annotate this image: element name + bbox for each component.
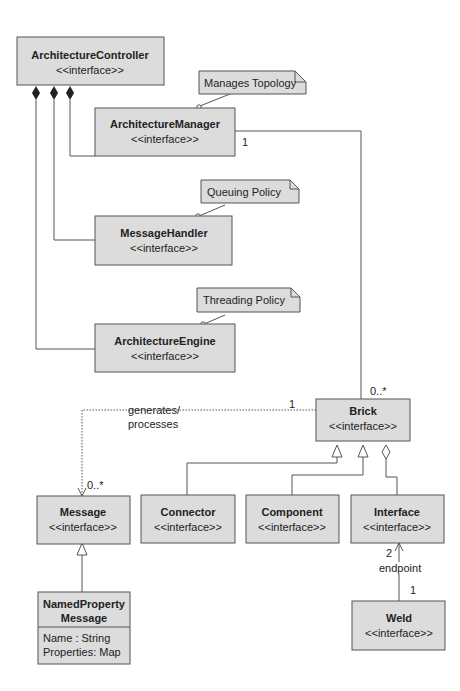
class-stereotype: <<interface>> [131, 350, 199, 362]
multiplicity-label: 1 [242, 136, 248, 148]
class-stereotype: <<interface>> [329, 420, 397, 432]
class-stereotype: <<interface>> [131, 133, 199, 145]
class-name: Brick [349, 405, 377, 417]
class-message[interactable]: Message <<interface>> [37, 496, 130, 544]
link-connector-brick [187, 457, 337, 496]
class-name: Message [61, 612, 107, 624]
generalization-triangle-icon [358, 445, 368, 457]
class-stereotype: <<interface>> [365, 627, 433, 639]
note-link [199, 205, 225, 216]
association-brick-message [82, 410, 316, 496]
class-weld[interactable]: Weld <<interface>> [352, 601, 445, 650]
link-controller-handler [54, 100, 95, 240]
composition-diamond-icon [50, 86, 58, 100]
class-stereotype: <<interface>> [363, 521, 431, 533]
class-name: Message [60, 506, 106, 518]
generalization-links [187, 445, 397, 496]
association-manager-brick [235, 131, 361, 399]
class-name: MessageHandler [120, 227, 208, 239]
multiplicity-label: 2 [386, 547, 392, 559]
class-name: ArchitectureManager [110, 118, 221, 130]
class-stereotype: <<interface>> [49, 521, 117, 533]
class-stereotype: <<interface>> [258, 521, 326, 533]
note-text: Queuing Policy [207, 186, 281, 198]
class-name: ArchitectureController [31, 49, 149, 61]
class-name: NamedProperty [43, 598, 126, 610]
association-label: processes [128, 418, 179, 430]
generalization-triangle-icon [77, 543, 87, 555]
class-attribute: Properties: Map [43, 646, 121, 658]
composition-diamond-icon [66, 86, 74, 100]
class-stereotype: <<interface>> [56, 64, 124, 76]
association-label: generates/ [128, 404, 181, 416]
class-name: Interface [374, 506, 420, 518]
class-brick[interactable]: Brick <<interface>> [316, 399, 410, 441]
class-message-handler[interactable]: MessageHandler <<interface>> [95, 216, 232, 265]
class-named-property-message[interactable]: NamedProperty Message Name : String Prop… [38, 592, 130, 664]
note-manages-topology[interactable]: Manages Topology [199, 71, 306, 94]
class-name: Connector [161, 506, 217, 518]
multiplicity-label: 1 [289, 398, 295, 410]
class-interface[interactable]: Interface <<interface>> [351, 495, 444, 543]
class-architecture-controller[interactable]: ArchitectureController <<interface>> [17, 37, 164, 85]
link-controller-manager [70, 100, 95, 156]
multiplicity-label: 0..* [370, 385, 387, 397]
note-threading-policy[interactable]: Threading Policy [197, 288, 300, 312]
class-attribute: Name : String [43, 632, 110, 644]
class-component[interactable]: Component <<interface>> [246, 495, 339, 543]
aggregation-diamond-icon [382, 445, 390, 459]
class-stereotype: <<interface>> [154, 521, 222, 533]
note-queuing-policy[interactable]: Queuing Policy [201, 180, 299, 203]
class-name: Component [261, 506, 322, 518]
link-controller-engine [36, 100, 95, 349]
class-name: ArchitectureEngine [114, 335, 215, 347]
class-architecture-manager[interactable]: ArchitectureManager <<interface>> [95, 108, 235, 156]
uml-class-diagram: ArchitectureController <<interface>> Arc… [0, 0, 460, 691]
composition-links [32, 86, 95, 349]
class-name: Weld [386, 612, 412, 624]
class-connector[interactable]: Connector <<interface>> [141, 495, 235, 543]
association-label: endpoint [379, 562, 421, 574]
class-stereotype: <<interface>> [130, 242, 198, 254]
note-text: Manages Topology [204, 77, 297, 89]
note-link [200, 94, 230, 106]
note-text: Threading Policy [203, 294, 285, 306]
note-link [204, 315, 225, 324]
link-interface-brick [386, 459, 397, 496]
composition-diamond-icon [32, 86, 40, 100]
multiplicity-label: 0..* [87, 479, 104, 491]
class-architecture-engine[interactable]: ArchitectureEngine <<interface>> [95, 324, 235, 372]
multiplicity-label: 1 [410, 584, 416, 596]
generalization-triangle-icon [332, 445, 342, 457]
